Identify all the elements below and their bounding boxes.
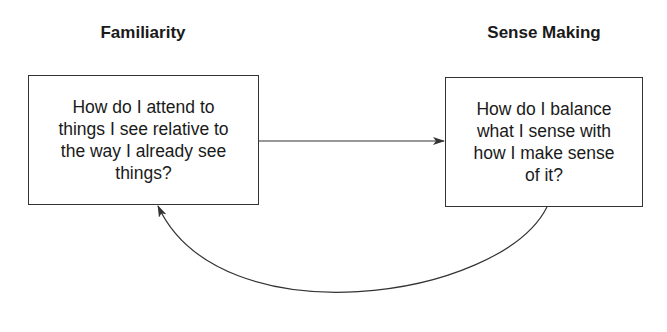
arrow-sense-making-to-familiarity <box>158 206 547 292</box>
sense-making-question: How do I balance what I sense with how I… <box>473 98 614 186</box>
sense-making-box: How do I balance what I sense with how I… <box>445 77 643 207</box>
familiarity-question: How do I attend to things I see relative… <box>58 96 228 184</box>
familiarity-box: How do I attend to things I see relative… <box>28 75 259 205</box>
